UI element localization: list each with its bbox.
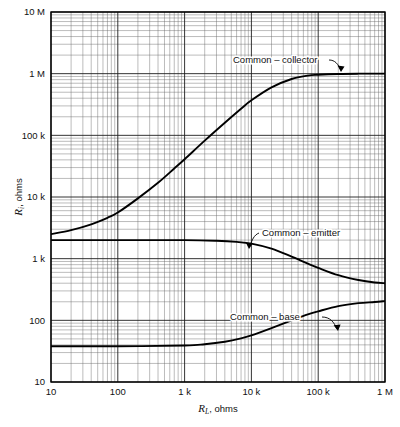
log-log-chart: 101001 k10 k100 k1 M 101001 k10 k100 k1 … [0,0,400,427]
x-tick-label: 1 M [377,386,393,397]
x-tick-label: 10 k [242,386,260,397]
y-tick-label: 10 [34,376,45,387]
figure-container: 101001 k10 k100 k1 M 101001 k10 k100 k1 … [0,0,400,427]
y-tick-label: 100 [29,315,45,326]
x-axis-title-unit: , ohms [209,403,238,414]
y-tick-label: 100 k [22,130,45,141]
y-axis-title-unit: , ohms [13,178,24,207]
chart-background [0,0,400,427]
annotation-label: Common – emitter [262,227,340,238]
y-tick-label: 10 k [27,191,45,202]
x-tick-label: 1 k [178,386,191,397]
y-tick-label: 1 k [32,253,45,264]
annotation-label: Common – base [230,311,300,322]
annotation-label: Common – collector [233,54,317,65]
x-tick-label: 10 [46,386,57,397]
x-tick-label: 100 k [307,386,330,397]
y-tick-label: 10 M [24,6,45,17]
y-tick-label: 1 M [29,68,45,79]
x-tick-label: 100 [110,386,126,397]
